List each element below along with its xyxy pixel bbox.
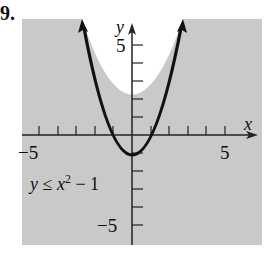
inequality-rest: − 1 xyxy=(71,174,99,194)
x-axis-label: x xyxy=(243,114,252,134)
inequality-y: y xyxy=(28,174,38,194)
inequality-label: y ≤ x2 − 1 xyxy=(28,172,99,194)
x-tick-label-neg5: −5 xyxy=(18,142,38,163)
x-tick-label-5: 5 xyxy=(220,142,230,163)
inequality-graph: y x 5 −5 5 −5 y ≤ x2 − 1 xyxy=(0,0,272,255)
inequality-x: x xyxy=(56,174,65,194)
y-tick-label-neg5: −5 xyxy=(97,215,117,236)
y-tick-label-5: 5 xyxy=(116,35,126,56)
y-axis-label: y xyxy=(114,17,124,37)
inequality-relation: ≤ xyxy=(38,174,57,194)
